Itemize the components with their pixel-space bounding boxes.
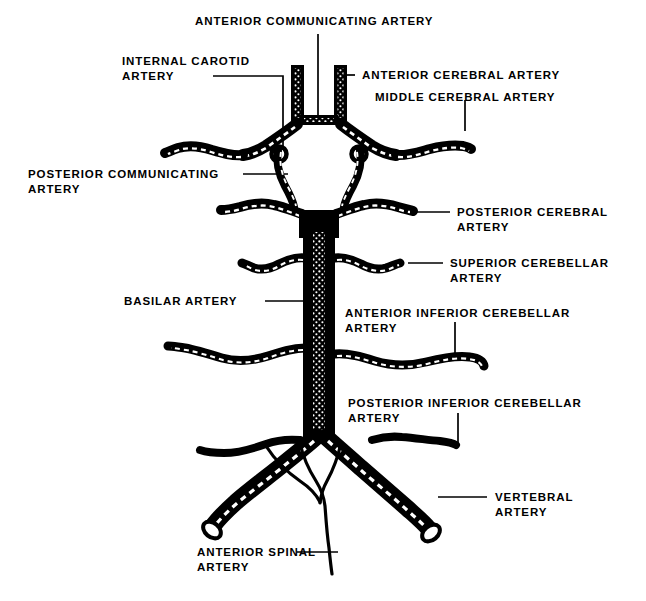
anterior-inferior-cerebellar-artery-right xyxy=(335,354,484,367)
label-posterior-inferior-cerebellar-artery-line2: ARTERY xyxy=(348,411,400,426)
basilar-artery xyxy=(299,210,339,437)
label-vertebral-artery-line2: ARTERY xyxy=(495,505,547,520)
label-superior-cerebellar-artery-line2: ARTERY xyxy=(450,271,502,286)
posterior-inferior-cerebellar-artery-right xyxy=(372,437,456,445)
label-posterior-cerebral-artery-line1: POSTERIOR CEREBRAL xyxy=(457,205,608,220)
label-anterior-inferior-cerebellar-artery-line2: ARTERY xyxy=(345,321,397,336)
circle-of-willis-right-limb xyxy=(341,124,396,156)
label-anterior-inferior-cerebellar-artery-line1: ANTERIOR INFERIOR CEREBELLAR xyxy=(345,306,570,321)
label-posterior-communicating-artery-line2: ARTERY xyxy=(28,182,80,197)
label-basilar-artery: BASILAR ARTERY xyxy=(124,294,237,309)
middle-cerebral-artery-left xyxy=(165,146,243,157)
anterior-cerebral-arteries xyxy=(291,65,347,123)
posterior-inferior-cerebellar-artery-left xyxy=(200,440,300,453)
middle-cerebral-artery-right xyxy=(396,146,471,158)
label-superior-cerebellar-artery-line1: SUPERIOR CEREBELLAR xyxy=(450,256,609,271)
label-middle-cerebral-artery: MIDDLE CEREBRAL ARTERY xyxy=(375,90,555,105)
anterior-communicating-artery xyxy=(300,115,338,125)
label-internal-carotid-artery-line1: INTERNAL CAROTID xyxy=(122,54,250,69)
label-posterior-inferior-cerebellar-artery-line1: POSTERIOR INFERIOR CEREBELLAR xyxy=(348,396,582,411)
anterior-inferior-cerebellar-artery-left xyxy=(168,346,305,362)
label-anterior-spinal-artery-line1: ANTERIOR SPINAL xyxy=(197,545,316,560)
vertebral-artery-right xyxy=(326,437,443,545)
superior-cerebellar-artery-left xyxy=(242,258,305,271)
label-vertebral-artery-line1: VERTEBRAL xyxy=(495,490,573,505)
label-anterior-cerebral-artery: ANTERIOR CEREBRAL ARTERY xyxy=(362,68,560,83)
label-internal-carotid-artery-line2: ARTERY xyxy=(122,69,174,84)
diagram-canvas: ANTERIOR COMMUNICATING ARTERY INTERNAL C… xyxy=(0,0,646,601)
posterior-cerebral-artery-left xyxy=(221,204,302,216)
superior-cerebellar-artery-right xyxy=(335,258,400,271)
label-anterior-communicating-artery: ANTERIOR COMMUNICATING ARTERY xyxy=(195,14,433,29)
posterior-cerebral-artery-right xyxy=(336,204,413,216)
label-anterior-spinal-artery-line2: ARTERY xyxy=(197,560,249,575)
label-posterior-cerebral-artery-line2: ARTERY xyxy=(457,220,509,235)
leader-lines xyxy=(213,34,487,552)
label-posterior-communicating-artery-line1: POSTERIOR COMMUNICATING xyxy=(28,167,219,182)
